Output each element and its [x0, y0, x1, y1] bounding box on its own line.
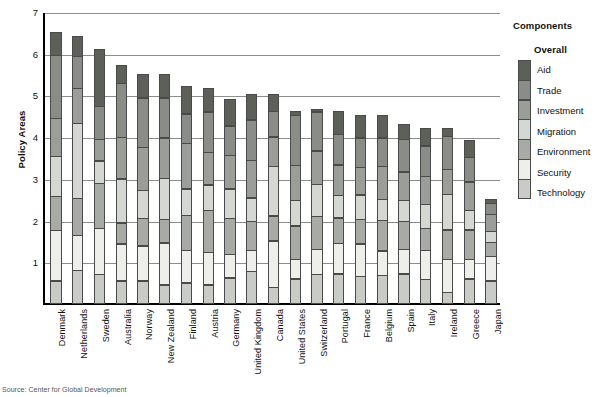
bar-united-kingdom[interactable] — [246, 90, 257, 303]
bar-segment-migration — [485, 231, 496, 243]
legend-swatch-environment[interactable] — [518, 139, 531, 160]
bar-segment-trade — [333, 134, 344, 165]
bar-japan[interactable] — [485, 195, 496, 303]
bar-segment-security — [246, 250, 257, 272]
bar-segment-technology — [159, 285, 170, 304]
bar-segment-environment — [116, 223, 127, 245]
bar-segment-security — [377, 251, 388, 276]
bar-segment-investment — [72, 88, 83, 123]
legend-title: Components — [513, 20, 596, 31]
legend-label-environment[interactable]: Environment — [537, 142, 596, 163]
x-axis-tick-label: Switzerland — [319, 309, 329, 357]
bar-greece[interactable] — [464, 136, 475, 303]
bar-portugal[interactable] — [333, 107, 344, 303]
bar-segment-investment — [203, 152, 214, 185]
bar-segment-technology — [420, 279, 431, 303]
y-axis-tick-label: 6 — [0, 50, 38, 60]
x-axis-tick-label: Finland — [188, 309, 198, 339]
bar-finland[interactable] — [181, 82, 192, 303]
bar-segment-security — [203, 252, 214, 285]
bar-segment-investment — [290, 165, 301, 200]
legend-label-technology[interactable]: Technology — [537, 183, 596, 204]
bar-segment-technology — [50, 281, 61, 304]
bar-segment-migration — [377, 199, 388, 221]
bar-segment-trade — [268, 111, 279, 137]
legend-label-security[interactable]: Security — [537, 163, 596, 184]
bar-segment-aid — [464, 140, 475, 158]
legend-label-migration[interactable]: Migration — [537, 122, 596, 143]
bar-segment-investment — [116, 137, 127, 179]
bar-segment-migration — [72, 123, 83, 199]
bar-norway[interactable] — [137, 69, 148, 303]
bar-segment-trade — [50, 55, 61, 118]
bar-austria[interactable] — [203, 84, 214, 303]
bar-spain[interactable] — [398, 119, 409, 303]
bar-segment-environment — [50, 196, 61, 231]
bar-segment-environment — [442, 230, 453, 260]
plot-area — [43, 13, 500, 305]
bar-segment-trade — [203, 112, 214, 153]
bar-segment-security — [464, 259, 475, 279]
y-axis-tick-label: 5 — [0, 92, 38, 102]
bar-segment-investment — [420, 176, 431, 204]
bar-segment-investment — [94, 139, 105, 161]
source-note: Source: Center for Global Development — [2, 386, 126, 393]
x-axis-tick-label: New Zealand — [166, 309, 176, 363]
bar-united-states[interactable] — [290, 107, 301, 303]
y-axis-tick-label: 7 — [0, 8, 38, 18]
bar-switzerland[interactable] — [311, 105, 322, 303]
bar-segment-migration — [224, 189, 235, 219]
bar-segment-environment — [464, 230, 475, 260]
bar-segment-technology — [311, 274, 322, 303]
bar-segment-security — [268, 241, 279, 288]
legend-label-trade[interactable]: Trade — [537, 81, 596, 102]
bar-segment-migration — [268, 166, 279, 216]
bar-denmark[interactable] — [50, 28, 61, 303]
bar-segment-environment — [203, 210, 214, 253]
legend-swatch-aid[interactable] — [518, 60, 531, 81]
bar-canada[interactable] — [268, 90, 279, 303]
legend-label-investment[interactable]: Investment — [537, 101, 596, 122]
bar-netherlands[interactable] — [72, 32, 83, 303]
bar-segment-security — [181, 250, 192, 283]
bar-segment-security — [159, 243, 170, 286]
x-axis-tick-label: Sweden — [101, 309, 111, 342]
bar-segment-aid — [94, 49, 105, 107]
bar-australia[interactable] — [116, 61, 127, 303]
bar-segment-aid — [181, 86, 192, 114]
bar-new-zealand[interactable] — [159, 69, 170, 303]
bar-segment-trade — [377, 138, 388, 167]
bar-segment-environment — [94, 183, 105, 229]
bar-segment-security — [224, 254, 235, 278]
bar-segment-migration — [355, 195, 366, 220]
bar-segment-environment — [333, 218, 344, 244]
legend-swatch-technology[interactable] — [518, 179, 531, 200]
bar-italy[interactable] — [420, 124, 431, 303]
bar-segment-aid — [224, 99, 235, 127]
bar-segment-aid — [50, 32, 61, 56]
bar-france[interactable] — [355, 111, 366, 303]
x-axis-tick-label: Greece — [471, 309, 481, 339]
legend-swatch-trade[interactable] — [518, 80, 531, 101]
legend-swatch-migration[interactable] — [518, 119, 531, 140]
bar-segment-aid — [203, 88, 214, 112]
bar-segment-environment — [268, 216, 279, 242]
bar-sweden[interactable] — [94, 44, 105, 303]
bar-segment-migration — [246, 198, 257, 222]
bar-segment-trade — [355, 138, 366, 168]
bar-belgium[interactable] — [377, 111, 388, 303]
bar-ireland[interactable] — [442, 124, 453, 303]
bar-segment-security — [116, 244, 127, 282]
bar-segment-trade — [159, 98, 170, 139]
bar-segment-migration — [442, 194, 453, 230]
bar-segment-migration — [116, 179, 127, 224]
bar-germany[interactable] — [224, 94, 235, 303]
bar-segment-aid — [420, 128, 431, 146]
bar-segment-security — [355, 244, 366, 277]
legend-swatch-security[interactable] — [518, 159, 531, 180]
legend-label-aid[interactable]: Aid — [537, 60, 596, 81]
legend-swatch-investment[interactable] — [518, 100, 531, 121]
bar-segment-technology — [355, 276, 366, 303]
x-axis-tick-label: Denmark — [57, 309, 67, 346]
bar-segment-technology — [181, 283, 192, 304]
